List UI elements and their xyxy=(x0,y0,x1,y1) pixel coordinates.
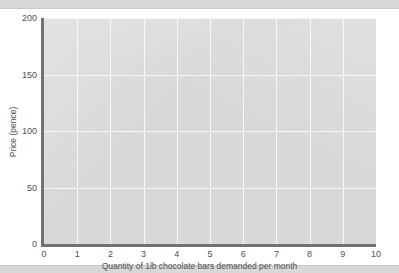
x-axis-line xyxy=(41,244,376,247)
gridline-horizontal xyxy=(44,188,376,189)
x-tick-label: 6 xyxy=(231,249,255,259)
gridline-horizontal xyxy=(44,75,376,76)
y-axis-title: Price (pence) xyxy=(8,77,18,187)
x-tick-label: 0 xyxy=(32,249,56,259)
y-tick-label: 0 xyxy=(9,239,37,249)
x-tick-label: 3 xyxy=(132,249,156,259)
plot-area xyxy=(44,18,376,244)
gridline-horizontal xyxy=(44,18,376,19)
x-tick-label: 8 xyxy=(298,249,322,259)
gridline-horizontal xyxy=(44,131,376,132)
page-scan-band-top xyxy=(0,0,399,9)
x-tick-label: 7 xyxy=(264,249,288,259)
x-tick-label: 9 xyxy=(331,249,355,259)
y-tick-label: 200 xyxy=(9,13,37,23)
x-tick-label: 2 xyxy=(98,249,122,259)
chart-figure: 050100150200 012345678910 Quantity of 1l… xyxy=(0,9,399,265)
x-tick-label: 4 xyxy=(165,249,189,259)
y-axis-line xyxy=(41,18,44,245)
x-tick-label: 5 xyxy=(198,249,222,259)
x-axis-title: Quantity of 1lb chocolate bars demanded … xyxy=(0,261,399,271)
x-tick-label: 10 xyxy=(364,249,388,259)
x-tick-label: 1 xyxy=(65,249,89,259)
